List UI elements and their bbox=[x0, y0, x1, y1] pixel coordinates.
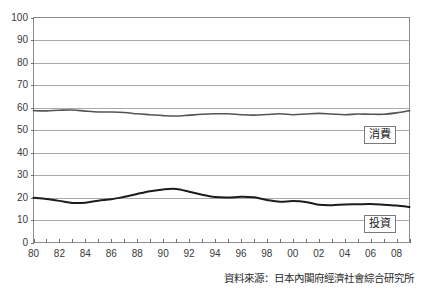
x-axis-tick-label: 92 bbox=[178, 248, 200, 259]
x-axis-tick-label: 80 bbox=[23, 248, 45, 259]
y-axis-tick-label: 70 bbox=[2, 79, 28, 90]
source-note: 資料來源：日本內閣府經濟社會綜合研究所 bbox=[0, 272, 414, 285]
y-axis-tick-label: 60 bbox=[2, 102, 28, 113]
x-axis-tick-label: 98 bbox=[256, 248, 278, 259]
y-axis-tick-label: 80 bbox=[2, 57, 28, 68]
chart-plot-area bbox=[0, 0, 423, 289]
x-axis-tick-label: 04 bbox=[334, 248, 356, 259]
chart-container: 0102030405060708090100 80828486889092949… bbox=[0, 0, 423, 289]
x-axis-tick-label: 02 bbox=[308, 248, 330, 259]
x-axis-tick-label: 96 bbox=[230, 248, 252, 259]
y-axis-tick-label: 30 bbox=[2, 169, 28, 180]
y-axis-tick-label: 40 bbox=[2, 147, 28, 158]
x-axis-tick-label: 86 bbox=[100, 248, 122, 259]
y-axis-tick-label: 100 bbox=[2, 12, 28, 23]
x-axis-tick-label: 88 bbox=[126, 248, 148, 259]
series-label-consumption: 消費 bbox=[364, 126, 396, 144]
y-axis-tick-label: 10 bbox=[2, 214, 28, 225]
y-axis-tick-label: 0 bbox=[2, 237, 28, 248]
x-axis-tick-label: 00 bbox=[282, 248, 304, 259]
x-axis-tick-label: 08 bbox=[386, 248, 408, 259]
x-axis-tick-label: 90 bbox=[152, 248, 174, 259]
x-axis-tick-label: 06 bbox=[360, 248, 382, 259]
series-label-investment: 投資 bbox=[364, 215, 396, 233]
x-axis-tick-label: 94 bbox=[204, 248, 226, 259]
y-axis-tick-label: 50 bbox=[2, 124, 28, 135]
x-axis-tick-label: 84 bbox=[74, 248, 96, 259]
y-axis-tick-label: 90 bbox=[2, 34, 28, 45]
x-axis-tick-label: 82 bbox=[48, 248, 70, 259]
y-axis-tick-label: 20 bbox=[2, 192, 28, 203]
